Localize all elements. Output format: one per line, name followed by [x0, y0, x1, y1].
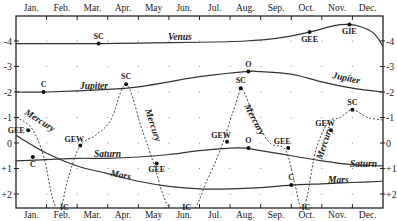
month-label-top: Sep.: [268, 3, 285, 13]
grid-dot: [229, 66, 230, 67]
month-label-bottom: May: [145, 210, 163, 220]
event-label: IC: [60, 203, 69, 212]
event-label: GEE: [301, 35, 318, 44]
grid-dot: [199, 40, 200, 41]
grid-dot: [260, 168, 261, 169]
grid-dot: [77, 193, 78, 194]
event-dot: [246, 146, 250, 150]
event-dot: [78, 144, 82, 148]
grid-dot: [46, 142, 47, 143]
event-dot: [26, 128, 30, 132]
grid-dot: [291, 91, 292, 92]
grid-dot: [260, 193, 261, 194]
grid-dot: [199, 117, 200, 118]
month-label-bottom: Dec.: [359, 210, 377, 220]
grid-dot: [321, 117, 322, 118]
mars-label-right: Mars: [327, 175, 349, 185]
grid-dot: [199, 168, 200, 169]
grid-dot: [291, 168, 292, 169]
event-label: SC: [93, 32, 103, 41]
event-label: GIE: [342, 27, 357, 36]
y-label-right: +1: [386, 163, 397, 174]
y-label-right: -3: [386, 61, 394, 72]
grid-dot: [107, 40, 108, 41]
grid-dot: [199, 66, 200, 67]
month-label-bottom: Mar.: [84, 210, 102, 220]
event-label: GEW: [64, 135, 84, 144]
y-label-left: 0: [7, 138, 12, 149]
grid-dot: [107, 168, 108, 169]
event-label: GEE: [8, 126, 25, 135]
event-dot: [246, 70, 250, 74]
event-dot: [97, 42, 101, 46]
y-label-right: -4: [386, 36, 394, 47]
month-label-bottom: Jul.: [208, 210, 221, 220]
grid-dot: [168, 193, 169, 194]
grid-dot: [291, 193, 292, 194]
grid-dot: [260, 66, 261, 67]
grid-dot: [229, 91, 230, 92]
grid-dot: [168, 142, 169, 143]
grid-dot: [107, 142, 108, 143]
grid-dot: [352, 91, 353, 92]
event-dot: [286, 146, 290, 150]
event-label: SC: [236, 76, 246, 85]
venus-curve: [16, 24, 383, 46]
event-label: GEE: [148, 165, 165, 174]
y-label-right: -2: [386, 87, 394, 98]
grid-dot: [138, 40, 139, 41]
event-label: SC: [347, 98, 357, 107]
event-dot: [124, 82, 128, 86]
y-label-right: +2: [386, 189, 397, 200]
grid-dot: [229, 193, 230, 194]
mercury-label-2: Mercury: [143, 107, 163, 144]
event-dot: [31, 155, 35, 159]
month-label-bottom: Jan.: [24, 210, 39, 220]
grid-dot: [291, 66, 292, 67]
grid-dot: [77, 91, 78, 92]
y-label-left: +2: [1, 189, 12, 200]
month-label-bottom: Sep.: [268, 210, 285, 220]
event-dot: [42, 90, 46, 94]
event-dot: [239, 86, 243, 90]
y-label-right: 0: [386, 138, 391, 149]
grid-dot: [46, 193, 47, 194]
event-label: GEW: [211, 131, 231, 140]
jupiter-label-right: Jupiter: [331, 70, 362, 86]
grid-dot: [352, 40, 353, 41]
grid-dot: [168, 117, 169, 118]
grid-dot: [77, 168, 78, 169]
y-label-left: -2: [4, 87, 12, 98]
grid-dot: [291, 40, 292, 41]
grid-dot: [321, 168, 322, 169]
y-label-right: -1: [386, 112, 394, 123]
saturn-label-right: Saturn: [350, 159, 377, 169]
grid-dot: [352, 142, 353, 143]
planet-magnitude-chart: Jan.Feb.Mar.Apr.MayJun.Jul.Aug.Sep.Oct.N…: [0, 0, 397, 221]
venus-label: Venus: [168, 32, 192, 42]
mars-label-left: Mars: [109, 168, 132, 182]
grid-dot: [168, 91, 169, 92]
planet-labels: Venus Jupiter Jupiter Saturn Saturn Mars…: [22, 32, 377, 185]
mercury-label-4: Mercury: [314, 125, 334, 162]
grid-dot: [229, 142, 230, 143]
month-label-top: Aug.: [236, 3, 255, 13]
saturn-label-left: Saturn: [94, 149, 121, 159]
month-label-top: Oct.: [298, 3, 314, 13]
month-label-top: Nov.: [328, 3, 346, 13]
event-dot: [225, 140, 229, 144]
jupiter-curve: [16, 71, 383, 92]
y-label-left: -1: [4, 112, 12, 123]
grid-dot: [199, 193, 200, 194]
month-label-top: Jan.: [24, 3, 39, 13]
month-label-bottom: Aug.: [236, 210, 255, 220]
event-dot: [289, 183, 293, 187]
event-label: IC: [302, 203, 311, 212]
month-label-bottom: Apr.: [115, 210, 132, 220]
grid-dot: [352, 117, 353, 118]
y-label-left: -3: [4, 61, 12, 72]
month-label-top: May: [145, 3, 163, 13]
grid-dot: [199, 142, 200, 143]
month-label-top: Dec.: [359, 3, 377, 13]
grid-dot: [77, 117, 78, 118]
